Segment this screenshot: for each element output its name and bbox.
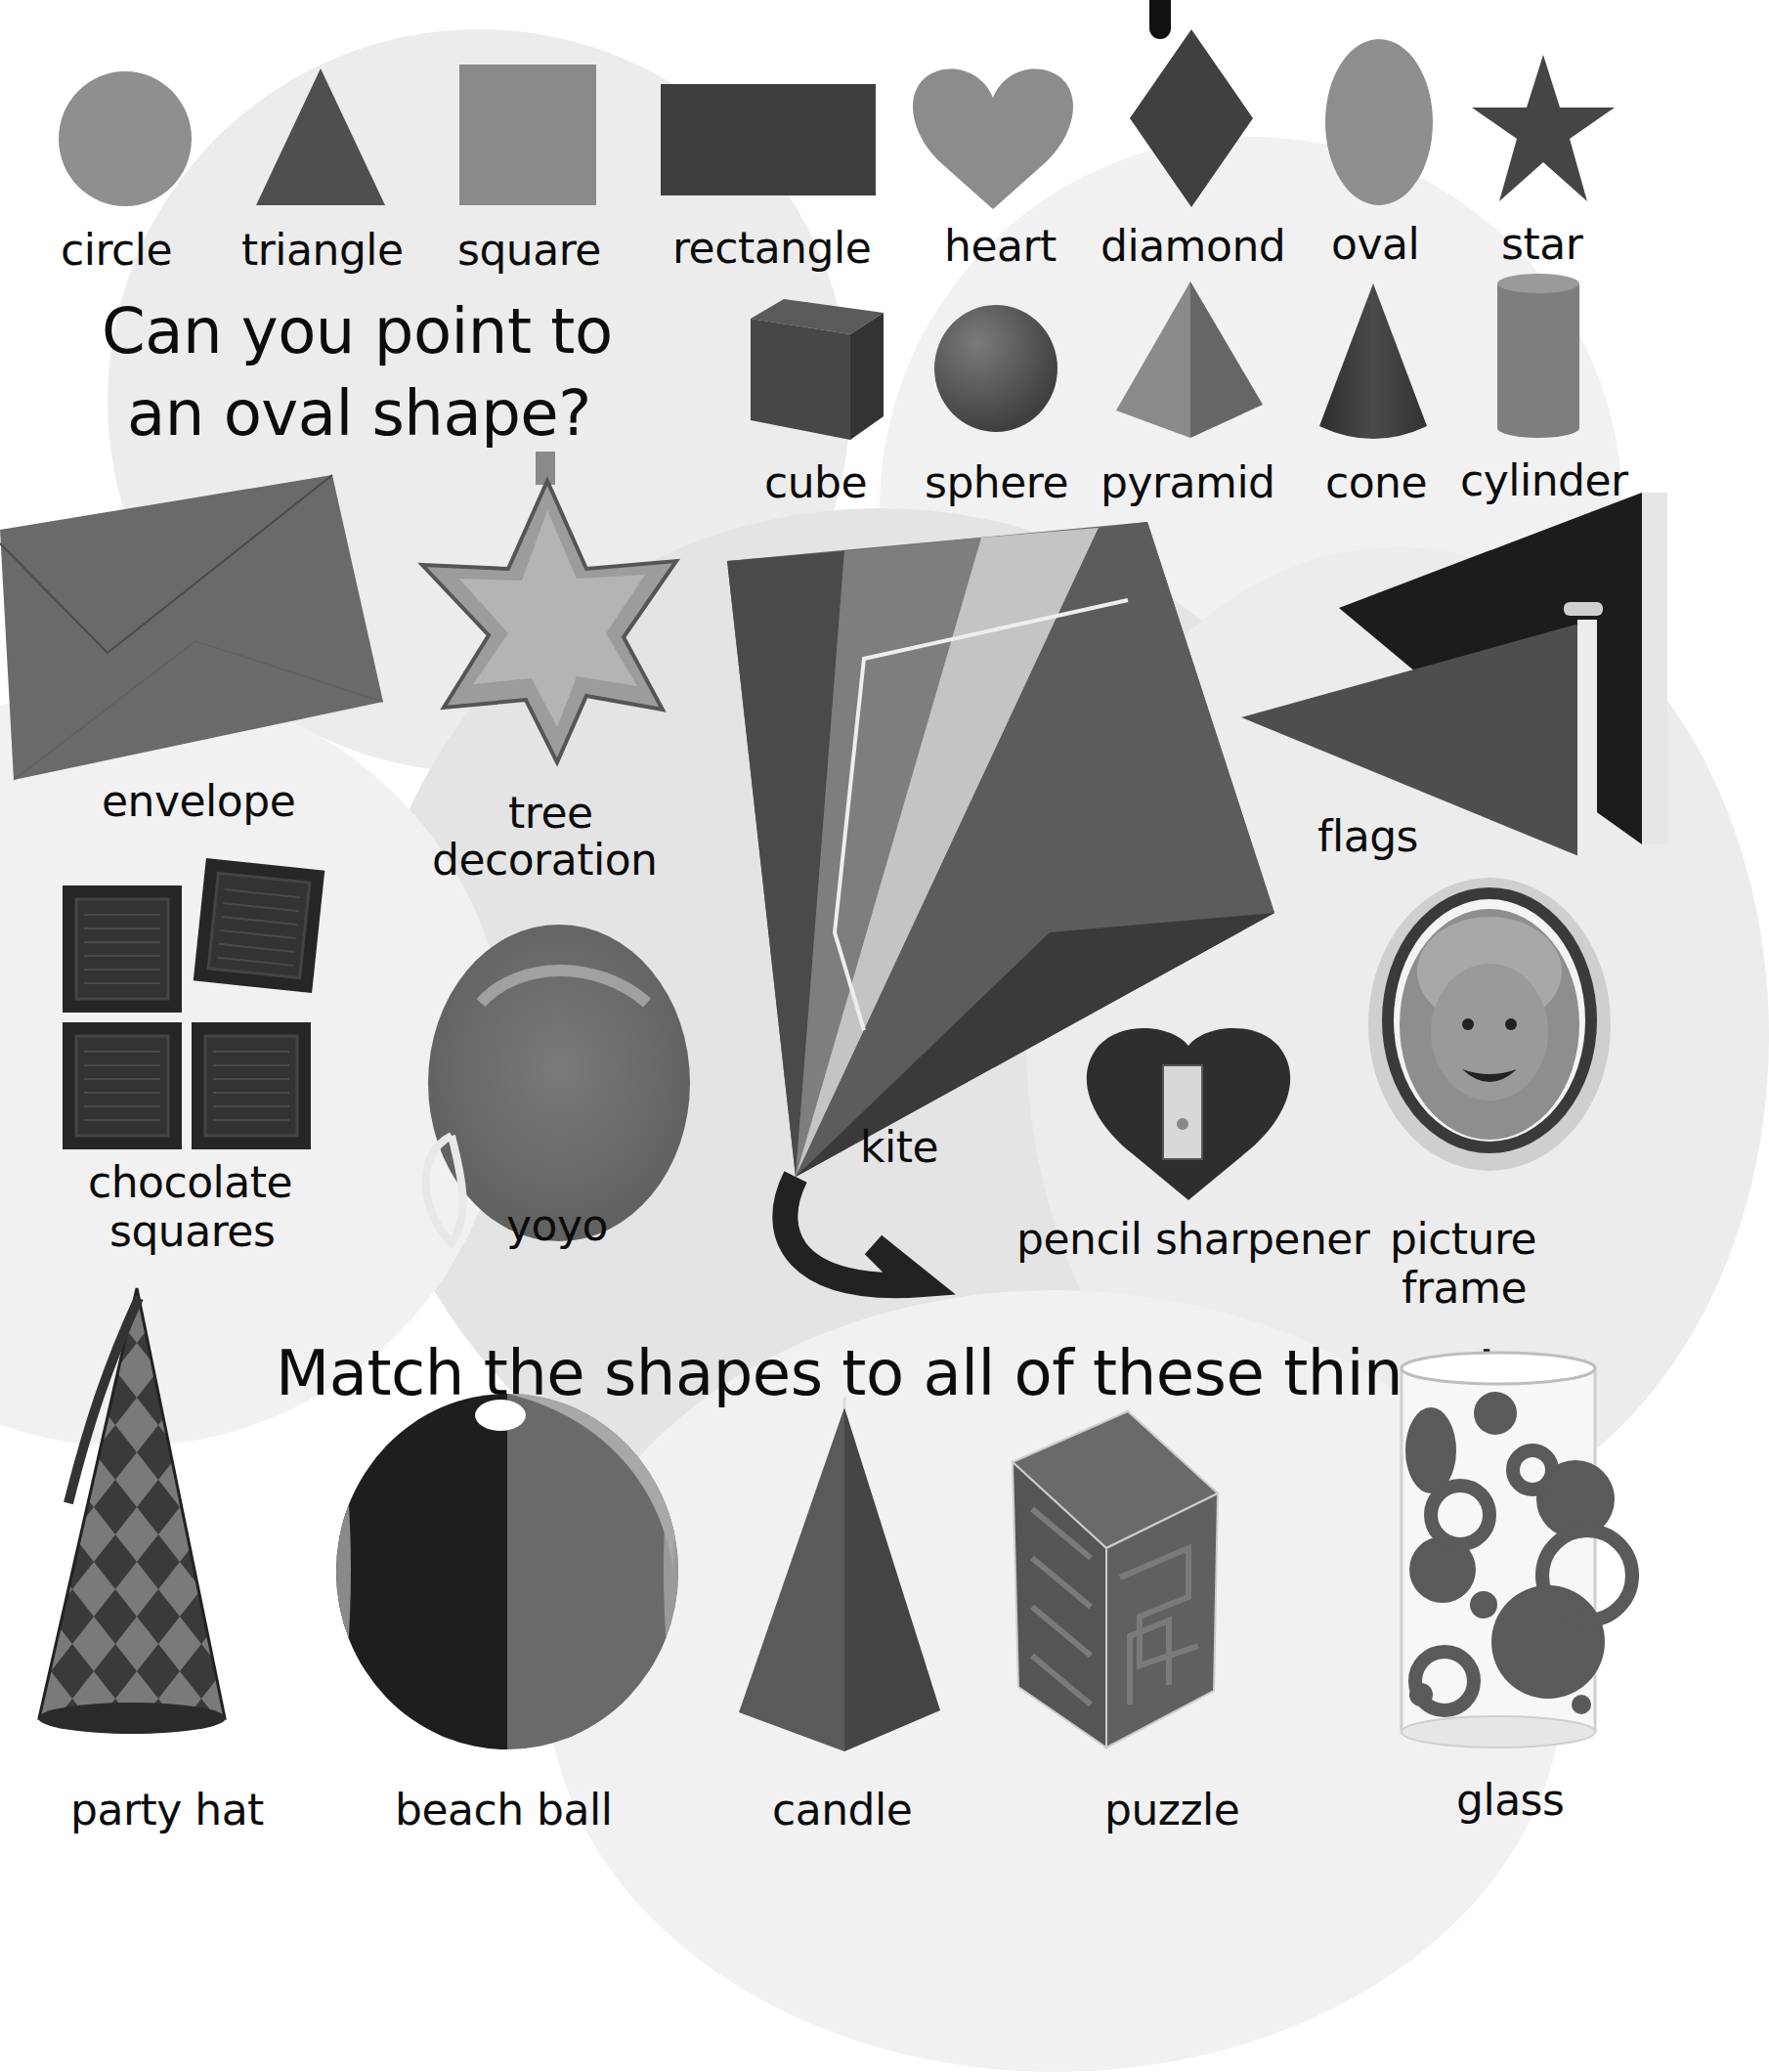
diamond-icon	[1130, 29, 1253, 207]
flat-shape-label: diamond	[1100, 223, 1285, 270]
oval-frame-icon	[1368, 878, 1611, 1171]
envelope-icon	[0, 475, 383, 780]
object-label-chocolate-line2: squares	[109, 1208, 275, 1255]
object-label-envelope: envelope	[102, 778, 295, 825]
star-ornament-icon	[414, 452, 680, 764]
rectangle-icon	[661, 84, 876, 195]
square-icon	[459, 65, 596, 205]
sphere-icon	[934, 305, 1057, 432]
object-label-puzzle: puzzle	[1104, 1787, 1239, 1834]
heart-sharpener-icon	[1085, 1026, 1292, 1200]
circle-icon	[59, 70, 192, 207]
object-label-candle: candle	[772, 1787, 912, 1834]
solid-shape-label: cube	[764, 459, 867, 506]
beach-ball-icon	[336, 1394, 678, 1749]
party-hat-icon	[29, 1288, 225, 1736]
glass-icon	[1402, 1353, 1595, 1748]
object-label-frame-line2: frame	[1402, 1265, 1527, 1312]
object-label-tree-line1: tree	[508, 790, 593, 837]
object-label-flags: flags	[1317, 813, 1418, 860]
triangle-icon	[256, 68, 385, 205]
question-line-2: an oval shape?	[127, 377, 591, 452]
object-label-yoyo: yoyo	[506, 1202, 608, 1249]
flat-shape-label: star	[1501, 221, 1582, 268]
flat-shape-label: square	[457, 227, 601, 274]
object-label-chocolate-line1: chocolate	[88, 1159, 292, 1206]
object-label-kite: kite	[860, 1124, 938, 1171]
object-label-sharpener: pencil sharpener	[1016, 1216, 1369, 1263]
flat-shape-label: circle	[61, 227, 172, 274]
flat-shape-label: heart	[944, 223, 1057, 270]
pyramid-icon	[1116, 281, 1263, 438]
object-label-frame-line1: picture	[1390, 1216, 1536, 1263]
question-line-1: Can you point to	[102, 295, 613, 369]
cube-icon	[751, 299, 884, 440]
maze-cube-icon	[1013, 1411, 1218, 1748]
object-label-party-hat: party hat	[70, 1787, 264, 1834]
flat-shape-label: rectangle	[672, 225, 871, 272]
flags-icon	[1241, 493, 1677, 862]
flat-shape-label: triangle	[241, 227, 404, 274]
cylinder-icon	[1497, 274, 1579, 440]
object-label-beach-ball: beach ball	[395, 1787, 612, 1834]
heart-icon	[911, 65, 1075, 209]
star-icon	[1472, 55, 1615, 201]
cone-icon	[1319, 283, 1427, 442]
oval-icon	[1325, 39, 1433, 205]
pyramid-candle-icon	[739, 1407, 940, 1751]
flat-shape-label: oval	[1331, 221, 1419, 268]
object-label-glass: glass	[1456, 1777, 1564, 1824]
solid-shape-label: sphere	[925, 459, 1068, 506]
object-label-tree-line2: decoration	[432, 837, 657, 884]
